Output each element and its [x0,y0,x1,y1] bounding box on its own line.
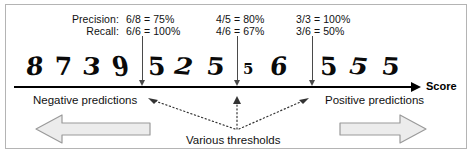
score-axis-arrow-icon [411,82,421,92]
threshold-line-1 [142,36,143,82]
handwritten-digit: 6 [269,53,289,79]
threshold-line-3 [312,36,313,82]
precision-value-threshold-1: 6/8 = 75% [126,13,174,25]
handwritten-digit: 8 [25,53,45,79]
handwritten-digit: 5 [205,54,226,78]
threshold-line-2 [237,36,238,82]
negative-direction-block-arrow-icon [34,112,152,146]
handwritten-digit: 5 [243,62,253,77]
negative-predictions-label: Negative predictions [33,94,137,106]
precision-value-threshold-3: 3/3 = 100% [296,13,350,25]
precision-value-threshold-2: 4/5 = 80% [216,13,264,25]
various-thresholds-caption: Various thresholds [186,134,280,146]
handwritten-digit: 5 [380,54,401,78]
recall-value-threshold-1: 6/6 = 100% [126,25,180,37]
handwritten-digit: 5 [320,54,338,80]
precision-recall-threshold-figure: Precision: Recall: 6/8 = 75% 6/6 = 100% … [0,0,475,156]
score-axis-label: Score [426,80,457,92]
positive-predictions-label: Positive predictions [325,94,424,106]
positive-direction-block-arrow-icon [338,112,428,146]
recall-value-threshold-3: 3/6 = 50% [296,25,344,37]
handwritten-digit: 5 [148,54,166,80]
score-axis-line [14,86,414,88]
recall-value-threshold-2: 4/6 = 67% [216,25,264,37]
recall-row-label: Recall: [45,25,119,37]
precision-row-label: Precision: [45,13,119,25]
handwritten-digit: 7 [55,54,73,80]
handwritten-digit: 3 [81,54,102,78]
